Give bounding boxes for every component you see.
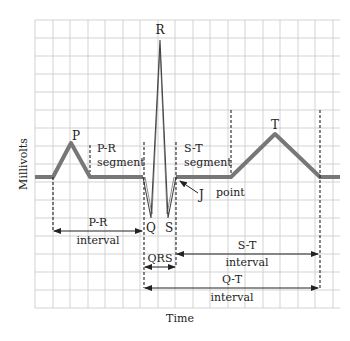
qt-interval-label-line2: interval — [210, 291, 254, 304]
pr-segment-label-line2: segment — [97, 156, 145, 169]
st-segment-label-line1: S-T — [184, 142, 203, 155]
qt-interval-label-line1: Q-T — [222, 273, 243, 286]
st-interval-label-line2: interval — [225, 256, 269, 269]
qrs-label: QRS — [148, 252, 173, 265]
s-wave-label: S — [165, 221, 173, 235]
j-point-letter: J — [197, 188, 204, 202]
y-axis-label: Millivolts — [17, 138, 30, 190]
pr-interval-label-line1: P-R — [89, 216, 109, 229]
pr-segment-label-line1: P-R — [97, 142, 117, 155]
qrs-complex-trace — [143, 40, 176, 218]
st-segment-label-line2: segment — [184, 156, 232, 169]
p-wave-label: P — [72, 129, 80, 143]
t-wave-label: T — [271, 118, 279, 132]
pr-interval-label-line2: interval — [76, 234, 120, 247]
j-point-word: point — [216, 186, 245, 199]
q-wave-label: Q — [146, 221, 156, 235]
x-axis-label: Time — [166, 312, 194, 325]
r-wave-label: R — [155, 23, 165, 37]
st-interval-label-line1: S-T — [238, 239, 257, 252]
ecg-diagram: R P T Q S P-R segment S-T segment J poin… — [0, 0, 350, 341]
